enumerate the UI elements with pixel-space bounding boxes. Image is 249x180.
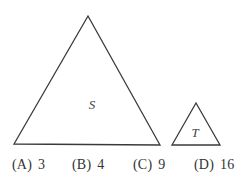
choice-a-value: 3	[38, 157, 45, 172]
choice-d-letter: (D)	[194, 157, 214, 172]
choice-a-letter: (A)	[12, 157, 32, 172]
choice-b-letter: (B)	[72, 157, 91, 172]
triangle-s-label: S	[89, 97, 96, 112]
triangle-s	[14, 16, 160, 145]
choice-d-value: 16	[220, 157, 234, 172]
choice-c[interactable]: (C)9	[133, 157, 165, 173]
triangles-figure: S T	[0, 0, 249, 180]
triangle-t-label: T	[191, 125, 199, 140]
choice-b-value: 4	[97, 157, 104, 172]
choice-c-letter: (C)	[133, 157, 152, 172]
choice-b[interactable]: (B)4	[72, 157, 104, 173]
choice-c-value: 9	[158, 157, 165, 172]
choice-a[interactable]: (A)3	[12, 157, 45, 173]
choice-d[interactable]: (D)16	[194, 157, 234, 173]
